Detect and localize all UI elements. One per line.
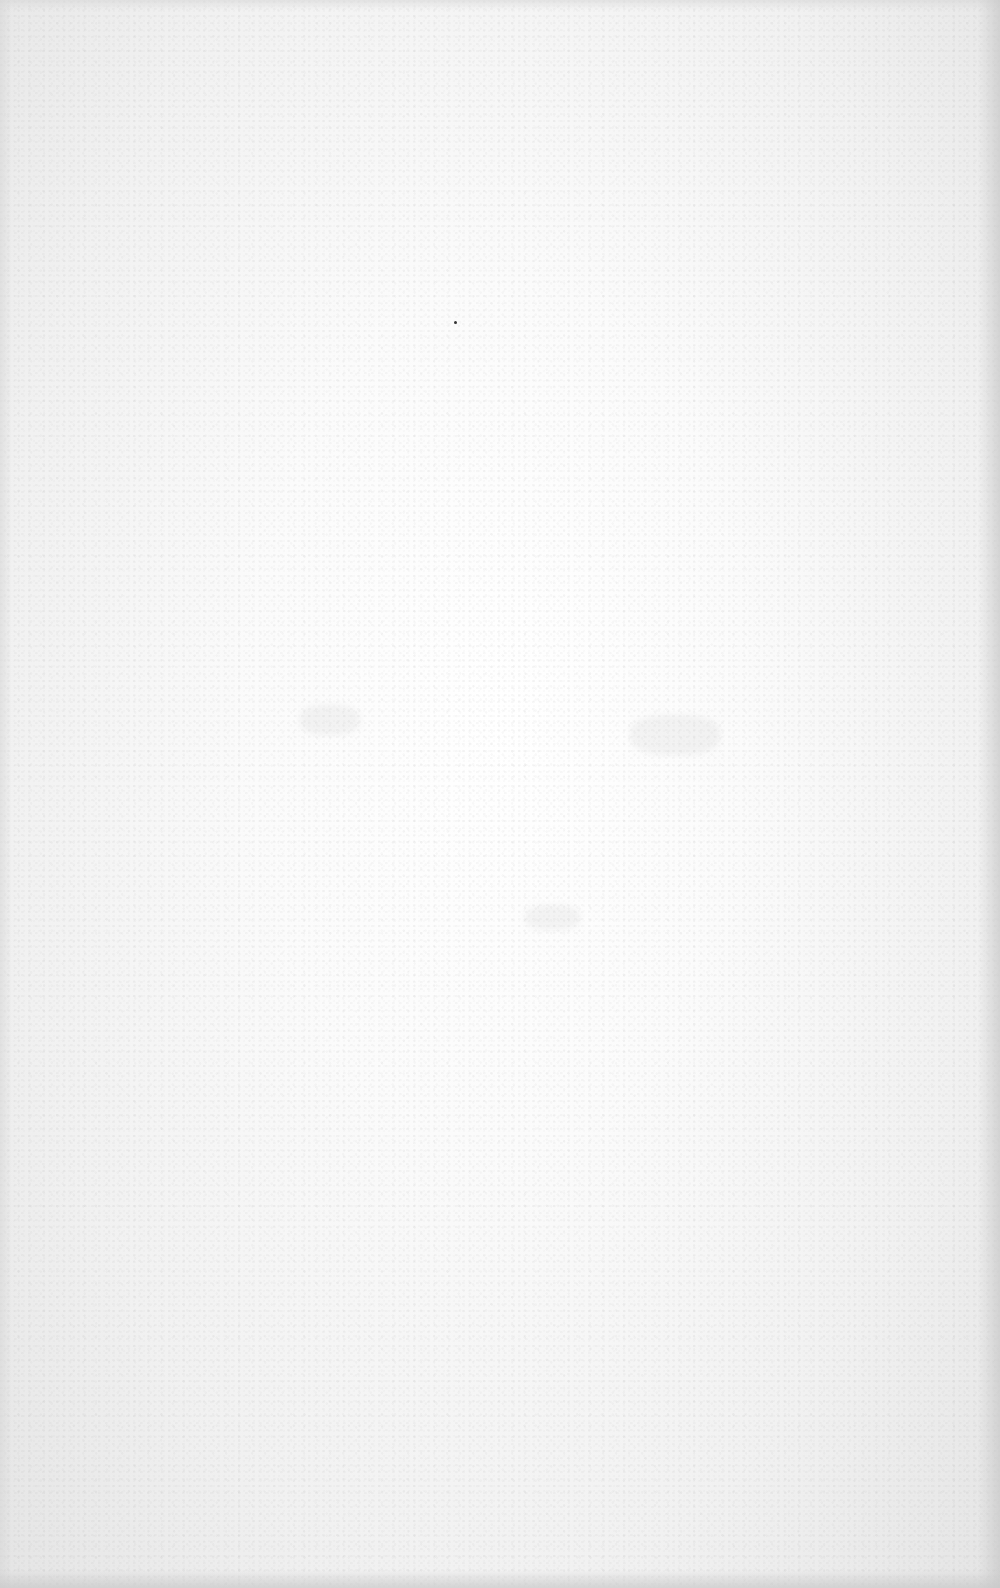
faint-bleed-through-mark [525,905,580,930]
blank-paper-page: Blank scanned paper page [0,0,1000,1588]
page-edge-bottom-shadow [0,1570,1000,1588]
faint-bleed-through-mark [630,715,720,755]
page-edge-left-shadow [0,0,12,1588]
page-edge-top-shadow [0,0,1000,10]
paper-grain-texture [0,0,1000,1588]
faint-bleed-through-mark [300,705,360,735]
ink-speck [454,321,457,324]
page-edge-right-shadow [978,0,1000,1588]
